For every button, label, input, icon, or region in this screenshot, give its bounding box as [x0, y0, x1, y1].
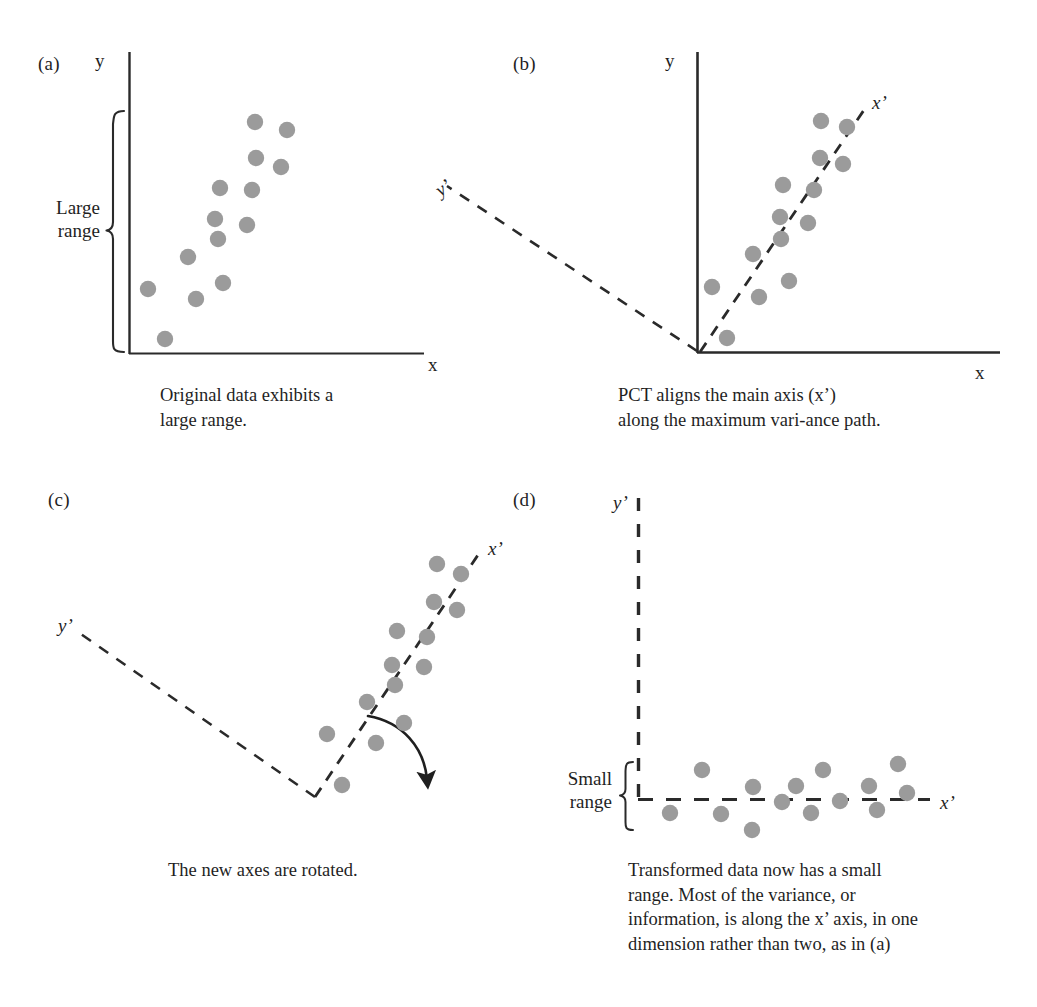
data-point: [239, 217, 255, 233]
data-point: [212, 180, 228, 196]
panel-d-caption-line2: range. Most of the variance, or: [628, 883, 1028, 908]
data-point: [389, 623, 405, 639]
data-point: [861, 778, 877, 794]
data-point: [279, 122, 295, 138]
data-point: [426, 594, 442, 610]
figure-canvas: (a) y x Large range Original data exhibi…: [0, 0, 1037, 1007]
data-point: [273, 159, 289, 175]
panel-a-caption-line2: large range.: [160, 408, 430, 433]
data-point: [781, 273, 797, 289]
panel-b-xprime-label: x’: [872, 92, 887, 114]
panel-a-y-axis-label: y: [95, 50, 105, 72]
panel-a-range-label-line1: Large: [8, 196, 100, 219]
scatter-series-b: [704, 113, 855, 346]
panel-d-caption-line3: information, is along the x’ axis, in on…: [628, 907, 1028, 932]
data-point: [396, 715, 412, 731]
panel-b-caption-line2: along the maximum vari-ance path.: [618, 408, 978, 433]
panel-a-range-label: Large range: [8, 196, 100, 242]
panel-b-caption: PCT aligns the main axis (x’) along the …: [618, 383, 978, 432]
panel-label-d: (d): [513, 489, 536, 511]
panel-d-caption-line1: Transformed data now has a small: [628, 858, 1028, 883]
data-point: [215, 275, 231, 291]
panel-d-range-label: Small range: [500, 767, 612, 813]
panel-c-xprime-label: x’: [488, 538, 503, 560]
data-point: [744, 822, 760, 838]
data-point: [800, 215, 816, 231]
data-point: [247, 114, 263, 130]
data-point: [140, 281, 156, 297]
panel-c-caption: The new axes are rotated.: [168, 858, 498, 883]
data-point: [890, 756, 906, 772]
data-point: [188, 291, 204, 307]
panel-d-caption-line4: dimension rather than two, as in (a): [628, 932, 1028, 957]
data-point: [775, 177, 791, 193]
panel-a-range-label-line2: range: [8, 219, 100, 242]
data-point: [835, 156, 851, 172]
panel-b-caption-line1: PCT aligns the main axis (x’): [618, 383, 978, 408]
panel-c-caption-line1: The new axes are rotated.: [168, 858, 498, 883]
data-point: [806, 182, 822, 198]
data-point: [334, 777, 350, 793]
data-point: [429, 556, 445, 572]
data-point: [244, 182, 260, 198]
panel-d-range-label-line2: range: [500, 790, 612, 813]
panel-d-range-label-line1: Small: [500, 767, 612, 790]
panel-label-b: (b): [513, 53, 536, 75]
data-point: [832, 793, 848, 809]
data-point: [869, 802, 885, 818]
data-point: [813, 113, 829, 129]
panel-a-caption-line1: Original data exhibits a: [160, 383, 430, 408]
scatter-series-d: [662, 756, 915, 838]
data-point: [751, 289, 767, 305]
data-point: [419, 629, 435, 645]
panel-a-caption: Original data exhibits a large range.: [160, 383, 430, 432]
data-point: [774, 794, 790, 810]
data-point: [207, 211, 223, 227]
panel-label-c: (c): [48, 489, 70, 511]
data-point: [803, 805, 819, 821]
data-point: [719, 330, 735, 346]
panel-d-caption: Transformed data now has a small range. …: [628, 858, 1028, 956]
data-point: [387, 677, 403, 693]
panel-c-yprime-label: y’: [58, 615, 73, 637]
data-point: [839, 119, 855, 135]
data-point: [180, 249, 196, 265]
data-point: [248, 150, 264, 166]
data-point: [812, 150, 828, 166]
data-point: [773, 231, 789, 247]
data-point: [449, 602, 465, 618]
data-point: [157, 331, 173, 347]
data-point: [899, 785, 915, 801]
data-point: [359, 694, 375, 710]
data-point: [453, 566, 469, 582]
panel-d-xprime-label: x’: [940, 792, 955, 814]
panel-a-x-axis-label: x: [428, 354, 438, 376]
data-point: [713, 806, 729, 822]
data-point: [210, 231, 226, 247]
panel-label-a: (a): [38, 53, 60, 75]
panel-d-yprime-label: y’: [613, 492, 628, 514]
scatter-series-a: [140, 114, 295, 347]
data-point: [368, 735, 384, 751]
data-point: [815, 762, 831, 778]
scatter-series-c: [319, 556, 469, 793]
data-point: [694, 762, 710, 778]
data-point: [772, 209, 788, 225]
panel-b-y-axis-label: y: [665, 50, 675, 72]
data-point: [662, 805, 678, 821]
data-point: [745, 779, 761, 795]
data-point: [384, 657, 400, 673]
data-point: [319, 726, 335, 742]
data-point: [416, 659, 432, 675]
panel-b-x-axis-label: x: [975, 362, 985, 384]
data-point: [704, 279, 720, 295]
data-point: [745, 246, 761, 262]
data-point: [788, 778, 804, 794]
